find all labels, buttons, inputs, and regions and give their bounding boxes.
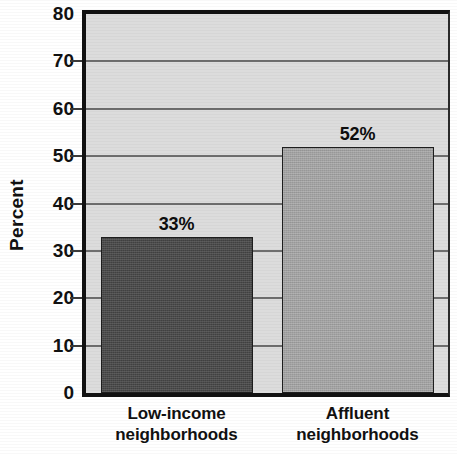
- x-axis-category-label: Low-incomeneighborhoods: [77, 403, 277, 445]
- category-label-line: neighborhoods: [77, 424, 277, 445]
- plot-area: [82, 10, 450, 397]
- bar-value-label: 33%: [117, 214, 237, 235]
- gridline: [86, 108, 448, 110]
- y-axis-tick-label: 80: [34, 4, 74, 23]
- plot-inner: [86, 14, 448, 393]
- category-label-line: neighborhoods: [258, 424, 457, 445]
- y-axis-tick-label: 0: [34, 383, 74, 402]
- y-axis-tick-label: 40: [34, 194, 74, 213]
- y-axis-tick-label: 60: [34, 99, 74, 118]
- y-axis-tick-label: 20: [34, 288, 74, 307]
- bar: [101, 237, 253, 393]
- bar-value-label: 52%: [298, 124, 418, 145]
- gridline: [86, 60, 448, 62]
- y-axis-tick-label: 10: [34, 336, 74, 355]
- category-label-line: Low-income: [127, 404, 225, 423]
- y-axis-tick-labels: 80706050403020100: [34, 0, 74, 454]
- y-axis-tick-label: 50: [34, 146, 74, 165]
- y-axis-tick-label: 30: [34, 241, 74, 260]
- x-axis-category-label: Affluentneighborhoods: [258, 403, 457, 445]
- y-axis-tick-label: 70: [34, 51, 74, 70]
- category-label-line: Affluent: [326, 404, 389, 423]
- bar-chart: Percent 80706050403020100 33%52% Low-inc…: [0, 0, 457, 454]
- y-axis-title-text: Percent: [6, 179, 28, 251]
- bar-texture: [283, 148, 433, 392]
- y-axis-title: Percent: [0, 150, 34, 280]
- bar: [282, 147, 434, 393]
- bar-texture: [102, 238, 252, 392]
